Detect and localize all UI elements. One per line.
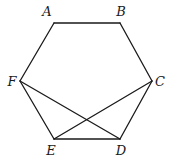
hexagon-diagram: A B C D E F — [0, 0, 173, 163]
vertex-label-c: C — [155, 74, 165, 89]
vertex-label-a: A — [41, 4, 51, 19]
vertex-label-d: D — [115, 143, 127, 158]
vertex-label-b: B — [115, 4, 126, 19]
side-fa — [20, 23, 54, 81]
diagonal-fd — [20, 81, 120, 139]
side-ef — [20, 81, 54, 139]
diagonal-ce — [54, 81, 152, 139]
vertex-label-f: F — [6, 74, 17, 89]
vertex-label-e: E — [45, 143, 56, 158]
side-bc — [120, 23, 152, 81]
side-cd — [120, 81, 152, 139]
